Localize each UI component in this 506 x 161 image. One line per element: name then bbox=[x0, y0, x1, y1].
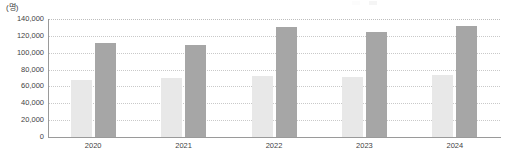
x-axis-tick-labels: 20202021202220232024 bbox=[48, 140, 500, 154]
chart-legend bbox=[352, 0, 502, 5]
x-axis-tick-label-2022: 2022 bbox=[229, 140, 319, 154]
x-axis-tick-label-2024: 2024 bbox=[410, 140, 500, 154]
y-axis-tick-label: 0 bbox=[0, 133, 44, 141]
bar-group-2021 bbox=[138, 19, 228, 137]
bar-2021-series-2[interactable] bbox=[185, 45, 206, 137]
x-axis-tick-label-2020: 2020 bbox=[48, 140, 138, 154]
bar-2022-series-1[interactable] bbox=[252, 76, 273, 137]
y-axis-tick-labels: 020,00040,00060,00080,000100,000120,0001… bbox=[0, 19, 44, 137]
y-axis-tick-label: 60,000 bbox=[0, 82, 44, 90]
y-axis-unit-label: (명) bbox=[6, 3, 18, 13]
bar-2020-series-2[interactable] bbox=[95, 43, 116, 137]
y-axis-tick-label: 40,000 bbox=[0, 99, 44, 107]
y-axis-tick-label: 80,000 bbox=[0, 66, 44, 74]
bar-group-2023 bbox=[319, 19, 409, 137]
bar-group-2020 bbox=[48, 19, 138, 137]
bar-group-2024 bbox=[410, 19, 500, 137]
bar-2022-series-2[interactable] bbox=[276, 27, 297, 137]
bar-chart-screenshot: (명) 020,00040,00060,00080,000100,000120,… bbox=[0, 0, 506, 161]
legend-swatch-2 bbox=[369, 1, 377, 5]
bar-2020-series-1[interactable] bbox=[71, 80, 92, 137]
bar-2024-series-1[interactable] bbox=[432, 75, 453, 137]
x-axis-tick-label-2021: 2021 bbox=[138, 140, 228, 154]
bar-2021-series-1[interactable] bbox=[161, 78, 182, 137]
legend-item-2 bbox=[369, 1, 380, 5]
x-axis-line bbox=[48, 137, 501, 138]
legend-item-1 bbox=[352, 1, 363, 5]
bar-group-2022 bbox=[229, 19, 319, 137]
y-axis-tick-label: 20,000 bbox=[0, 116, 44, 124]
y-axis-tick-label: 120,000 bbox=[0, 32, 44, 40]
bar-groups bbox=[48, 19, 500, 137]
y-axis-tick-label: 100,000 bbox=[0, 49, 44, 57]
bar-2023-series-2[interactable] bbox=[366, 32, 387, 137]
y-axis-tick-label: 140,000 bbox=[0, 15, 44, 23]
bar-2023-series-1[interactable] bbox=[342, 77, 363, 137]
x-axis-tick-label-2023: 2023 bbox=[319, 140, 409, 154]
bar-2024-series-2[interactable] bbox=[456, 26, 477, 137]
legend-swatch-1 bbox=[352, 1, 360, 5]
